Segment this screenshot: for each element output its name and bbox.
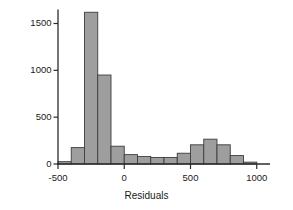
histogram-bar — [164, 157, 177, 164]
y-tick-label: 0 — [22, 158, 52, 169]
y-tick-label: 1000 — [22, 64, 52, 75]
histogram-bar — [177, 153, 190, 164]
histogram-bar — [85, 12, 98, 164]
histogram-bar — [98, 75, 111, 164]
histogram-bar — [191, 145, 204, 164]
histogram-bar — [138, 157, 151, 164]
histogram-bar — [204, 139, 217, 164]
y-tick-label: 500 — [22, 111, 52, 122]
histogram-bar — [124, 155, 137, 164]
histogram-bar — [111, 146, 124, 164]
histogram-figure: Frequency Residuals 050010001500 -500050… — [0, 0, 293, 210]
histogram-bar — [71, 148, 84, 164]
x-tick-label: 0 — [104, 172, 144, 183]
histogram-bar — [230, 156, 243, 164]
x-tick-label: 1000 — [237, 172, 277, 183]
histogram-bars — [58, 12, 257, 164]
histogram-bar — [151, 157, 164, 164]
y-tick-label: 1500 — [22, 17, 52, 28]
x-tick-label: -500 — [38, 172, 78, 183]
histogram-bar — [217, 145, 230, 164]
x-tick-label: 500 — [171, 172, 211, 183]
